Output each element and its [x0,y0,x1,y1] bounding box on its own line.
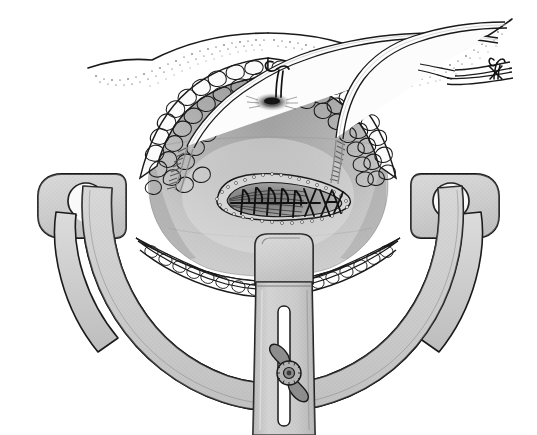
retractor-blade-bottom[interactable] [255,234,313,284]
illustration-canvas [0,0,537,435]
surgical-illustration-figure [0,0,537,435]
